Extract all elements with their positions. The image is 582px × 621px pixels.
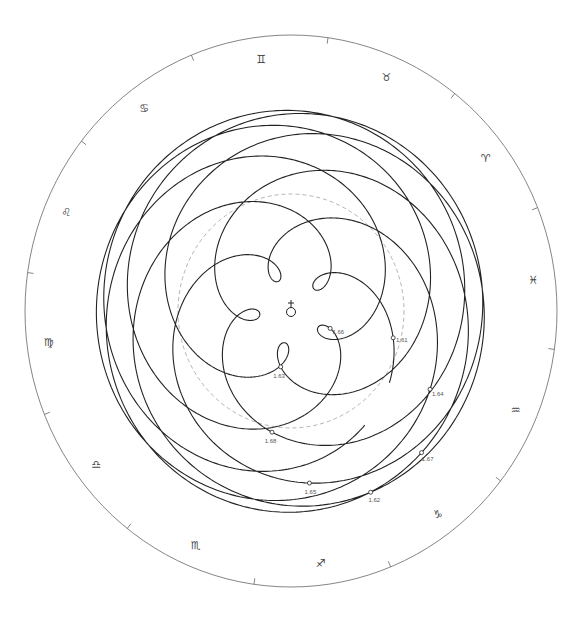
year-marker-label: 1.67: [422, 456, 434, 462]
zodiac-taurus-icon: ♉: [381, 71, 391, 84]
year-marker-label: 1.64: [432, 391, 444, 397]
zodiac-tick: [191, 55, 193, 61]
zodiac-tick: [28, 273, 34, 274]
zodiac-sagittarius-icon: ♐: [316, 557, 326, 570]
year-marker-dot: [307, 481, 311, 485]
zodiac-gemini-icon: ♊: [256, 53, 266, 66]
zodiac-ring: [25, 35, 557, 587]
zodiac-virgo-icon: ♍: [44, 336, 54, 349]
year-marker: 1.62: [368, 490, 380, 503]
year-markers: 1.611.621.631.641.651.661.671.68: [265, 326, 445, 503]
zodiac-tick: [254, 578, 255, 584]
outer-ring-circle: [25, 35, 557, 587]
venus-path: [96, 110, 484, 512]
orbit-diagram: ♈♉♊♋♌♍♎♏♐♑♒♓ 1.611.621.631.641.651.661.6…: [0, 0, 582, 621]
zodiac-libra-icon: ♎: [91, 458, 101, 471]
year-marker-dot: [270, 430, 274, 434]
zodiac-aquarius-icon: ♒: [511, 404, 521, 417]
zodiac-tick: [127, 524, 131, 529]
year-marker-label: 1.62: [368, 497, 380, 503]
zodiac-pisces-icon: ♓: [528, 274, 538, 287]
earth-symbol: [287, 300, 296, 317]
zodiac-tick: [388, 561, 390, 567]
zodiac-capricorn-icon: ♑: [433, 508, 443, 521]
zodiac-tick: [548, 349, 554, 350]
venus-path-line: [96, 110, 484, 512]
zodiac-tick: [44, 412, 50, 414]
zodiac-tick: [496, 477, 501, 481]
zodiac-aries-icon: ♈: [481, 152, 491, 165]
year-marker-label: 1.65: [305, 489, 317, 495]
zodiac-leo-icon: ♌: [61, 206, 71, 219]
zodiac-tick: [451, 94, 455, 99]
year-marker-label: 1.66: [333, 329, 345, 335]
zodiac-tick: [327, 38, 328, 44]
zodiac-tick: [81, 141, 86, 145]
year-marker-dot: [369, 490, 373, 494]
year-marker: 1.68: [265, 430, 277, 444]
year-marker-dot: [391, 336, 395, 340]
year-marker: 1.66: [328, 326, 345, 335]
zodiac-sign-labels: ♈♉♊♋♌♍♎♏♐♑♒♓: [44, 53, 538, 570]
year-marker-label: 1.63: [273, 373, 285, 379]
year-marker-dot: [420, 451, 424, 455]
year-marker-label: 1.68: [265, 438, 277, 444]
zodiac-scorpio-icon: ♏: [191, 539, 201, 552]
year-marker-dot: [279, 365, 283, 369]
zodiac-cancer-icon: ♋: [139, 102, 149, 115]
earth-icon: [287, 308, 296, 317]
year-marker: 1.67: [420, 451, 435, 463]
year-marker-label: 1.61: [396, 337, 408, 343]
year-marker: 1.63: [273, 365, 285, 379]
zodiac-tick: [532, 208, 538, 210]
